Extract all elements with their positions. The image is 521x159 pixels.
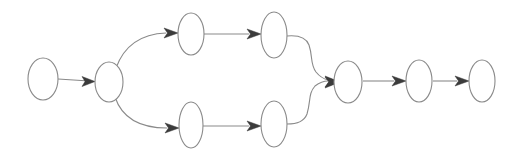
node-shape[interactable] <box>261 12 287 58</box>
node-layer <box>28 12 495 148</box>
node-shape[interactable] <box>334 61 362 103</box>
edge-line <box>116 33 166 68</box>
node-shape[interactable] <box>179 102 203 148</box>
node-n8[interactable] <box>406 60 432 102</box>
node-n3[interactable] <box>178 13 204 55</box>
flow-diagram-svg <box>0 0 521 159</box>
arrowhead-icon <box>164 28 178 38</box>
arrowhead-icon <box>165 123 179 133</box>
edge-n1-n2 <box>58 77 95 87</box>
edge-n7-n8 <box>363 76 406 86</box>
node-n6[interactable] <box>261 101 287 147</box>
node-n9[interactable] <box>469 60 495 102</box>
arrowhead-icon <box>82 77 95 87</box>
edge-n2-n5 <box>115 97 179 133</box>
edge-n6-n7 <box>287 77 340 124</box>
node-shape[interactable] <box>28 58 58 100</box>
node-shape[interactable] <box>469 60 495 102</box>
node-shape[interactable] <box>95 62 123 102</box>
edge-n5-n6 <box>203 121 261 131</box>
node-n1[interactable] <box>28 58 58 100</box>
arrowhead-icon <box>247 29 261 39</box>
node-n7[interactable] <box>334 61 362 103</box>
arrowhead-icon <box>247 121 261 131</box>
edge-n2-n3 <box>116 28 178 68</box>
arrowhead-icon <box>455 76 469 86</box>
node-shape[interactable] <box>178 13 204 55</box>
node-n4[interactable] <box>261 12 287 58</box>
arrowhead-icon <box>392 76 406 86</box>
flow-diagram-canvas <box>0 0 521 159</box>
node-n2[interactable] <box>95 62 123 102</box>
edge-n8-n9 <box>433 76 469 86</box>
edge-line <box>287 81 328 124</box>
node-shape[interactable] <box>261 101 287 147</box>
edge-line <box>287 36 328 80</box>
edge-line <box>115 97 167 128</box>
node-shape[interactable] <box>406 60 432 102</box>
node-n5[interactable] <box>179 102 203 148</box>
edge-n3-n4 <box>204 29 261 39</box>
